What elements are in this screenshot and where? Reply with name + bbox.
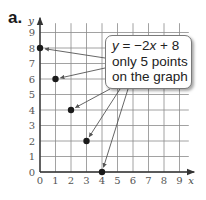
y-tick-label: 9 (29, 27, 35, 38)
y-tick-label: 1 (29, 151, 35, 162)
x-tick-label: 2 (68, 175, 74, 186)
callout-equation: y = −2x + 8 (112, 38, 191, 54)
callout-arrow (75, 89, 110, 108)
y-tick-label: 6 (29, 74, 35, 85)
y-tick-label: 2 (29, 136, 35, 147)
y-axis-label: y (27, 15, 34, 26)
y-tick-label: 0 (29, 167, 35, 178)
x-tick-label: 1 (52, 175, 58, 186)
data-point (52, 76, 58, 82)
y-tick-label: 8 (29, 43, 35, 54)
x-tick-label: 7 (145, 175, 151, 186)
x-tick-label: 9 (176, 175, 182, 186)
x-tick-label: 5 (114, 175, 120, 186)
y-tick-label: 7 (29, 58, 35, 69)
x-tick-label: 4 (99, 175, 105, 186)
x-tick-label: 3 (83, 175, 89, 186)
coordinate-grid-chart: 01234567890123456789xy (0, 0, 206, 200)
equation-tail: + 8 (156, 38, 179, 53)
callout-arrow (60, 68, 105, 78)
callout-arrow (45, 49, 105, 58)
x-tick-label: 0 (37, 175, 43, 186)
y-tick-label: 5 (29, 89, 35, 100)
y-tick-label: 3 (29, 120, 35, 131)
annotation-callout: y = −2x + 8 only 5 points on the graph (105, 35, 192, 89)
x-tick-label: 8 (161, 175, 167, 186)
callout-arrow (103, 89, 128, 167)
callout-line-2: only 5 points (112, 54, 191, 70)
part-label: a. (8, 8, 22, 28)
equation-middle: = −2 (119, 38, 150, 53)
data-point (99, 169, 105, 175)
data-point (83, 138, 89, 144)
data-point (68, 107, 74, 113)
y-tick-label: 4 (29, 105, 35, 116)
x-tick-label: 6 (130, 175, 136, 186)
equation-y: y (112, 38, 119, 53)
data-point (37, 45, 43, 51)
callout-line-3: on the graph (112, 69, 191, 85)
x-axis-label: x (188, 175, 194, 186)
